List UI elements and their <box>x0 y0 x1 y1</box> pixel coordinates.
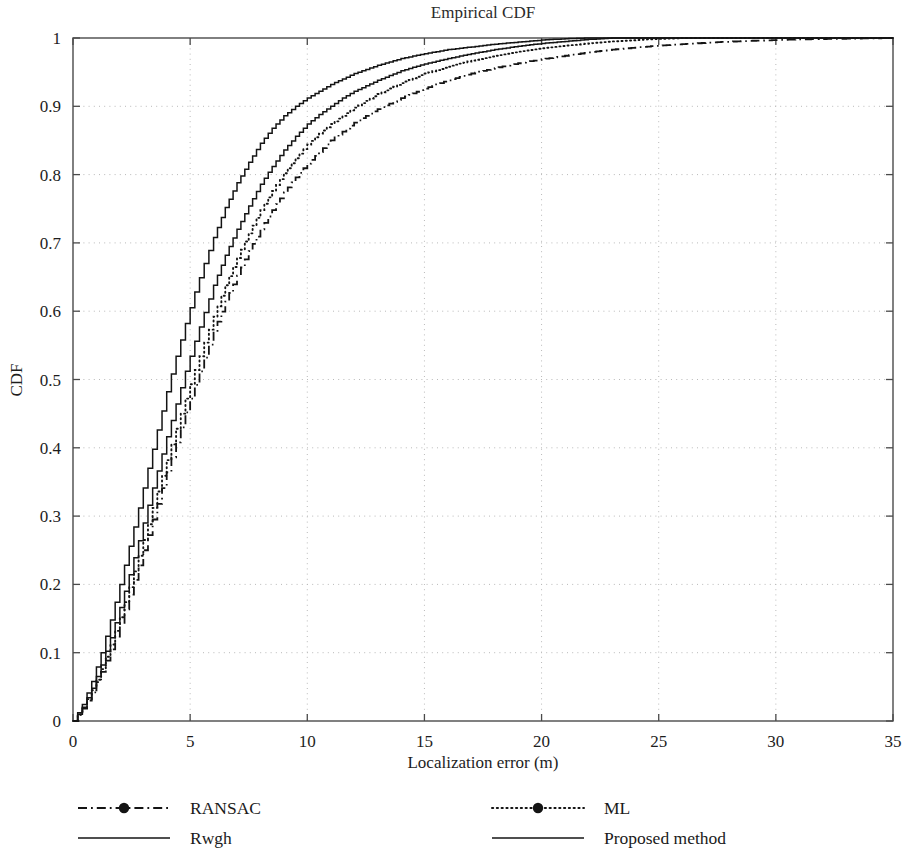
legend-label: Proposed method <box>604 828 726 848</box>
chart-figure: Empirical CDF 05101520253035 00.10.20.30… <box>0 0 911 853</box>
legend-circle-marker-icon <box>119 803 129 813</box>
x-tick-label: 10 <box>299 732 316 751</box>
y-tick-label: 0.4 <box>40 439 62 458</box>
y-tick-label: 0.5 <box>40 371 61 390</box>
y-tick-label: 0.2 <box>40 575 61 594</box>
x-tick-label: 15 <box>416 732 433 751</box>
y-tick-label: 0 <box>53 712 62 731</box>
x-tick-labels: 05101520253035 <box>69 732 902 751</box>
y-tick-label: 0.6 <box>40 302 61 321</box>
x-axis-label: Localization error (m) <box>407 753 558 772</box>
x-tick-label: 5 <box>186 732 195 751</box>
y-tick-label: 0.7 <box>40 234 62 253</box>
legend-label: ML <box>604 798 630 818</box>
y-axis-label: CDF <box>7 363 26 396</box>
legend-label: RANSAC <box>190 798 261 818</box>
y-tick-labels: 00.10.20.30.40.50.60.70.80.91 <box>40 29 62 731</box>
y-tick-label: 0.8 <box>40 166 61 185</box>
chart-title: Empirical CDF <box>431 3 535 22</box>
y-tick-label: 0.9 <box>40 97 61 116</box>
legend-label: Rwgh <box>190 828 232 848</box>
y-tick-label: 0.1 <box>40 644 61 663</box>
x-tick-label: 35 <box>885 732 902 751</box>
x-tick-label: 0 <box>69 732 78 751</box>
x-tick-label: 30 <box>767 732 784 751</box>
empirical-cdf-chart: Empirical CDF 05101520253035 00.10.20.30… <box>0 0 911 853</box>
legend-circle-marker-icon <box>533 803 543 813</box>
y-tick-label: 1 <box>53 29 62 48</box>
y-tick-label: 0.3 <box>40 507 61 526</box>
chart-legend: RANSACMLRwghProposed method <box>78 798 726 848</box>
x-tick-label: 20 <box>533 732 550 751</box>
gridlines <box>73 38 893 721</box>
x-tick-label: 25 <box>650 732 667 751</box>
